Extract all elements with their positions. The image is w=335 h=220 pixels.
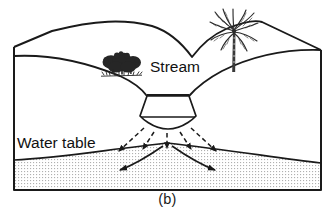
ridge-crest-back: [14, 21, 321, 57]
figure-caption: (b): [0, 191, 335, 207]
palm-tree-icon: [210, 9, 258, 72]
stream-label: Stream: [150, 58, 200, 75]
stream-recharge-diagram: Stream Water table: [0, 0, 335, 220]
figure-block-diagram: Stream Water table (b): [0, 0, 335, 220]
water-table-label: Water table: [17, 134, 96, 151]
shrub-cluster-icon: [101, 51, 142, 76]
